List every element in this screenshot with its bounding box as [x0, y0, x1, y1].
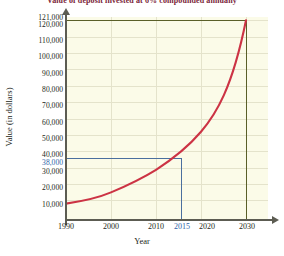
y-tick-label-100000: 100,000 [19, 53, 63, 61]
chart-figure: Value of deposit invested at 6% compound… [0, 0, 284, 256]
y-tick-label-60000: 60,000 [19, 119, 63, 127]
x-axis-title: Year [0, 236, 284, 246]
x-tick-label-2030: 2030 [239, 222, 255, 231]
y-tick-label-20000: 20,000 [19, 184, 63, 192]
y-tick-label-70000: 70,000 [19, 102, 63, 110]
x-tick-label-2010: 2010 [148, 222, 164, 231]
x-tick-label-2020: 2020 [199, 222, 215, 231]
y-axis-line [65, 13, 67, 225]
data-curve [66, 17, 268, 220]
y-tick-label-group: 121,000 120,000 110,000 100,000 90,000 8… [18, 0, 63, 256]
y-tick-label-80000: 80,000 [19, 86, 63, 94]
x-axis-line [65, 219, 274, 221]
y-tick-label-10000: 10,000 [19, 201, 63, 209]
y-tick-label-120000: 120,000 [19, 21, 63, 29]
y-tick-label-90000: 90,000 [19, 70, 63, 78]
x-tick-label-1990: 1990 [58, 222, 74, 231]
x-tick-label-2000: 2000 [103, 222, 119, 231]
y-tick-label-30000: 30,000 [19, 168, 63, 176]
x-tick-label-2015: 2015 [174, 222, 190, 231]
y-tick-label-38000: 38,000 [19, 159, 63, 167]
y-axis-title: Value (in dollars) [4, 67, 14, 167]
y-axis-arrow [62, 8, 70, 15]
y-tick-label-50000: 50,000 [19, 135, 63, 143]
y-tick-label-110000: 110,000 [19, 37, 63, 45]
x-axis-arrow [272, 216, 279, 224]
